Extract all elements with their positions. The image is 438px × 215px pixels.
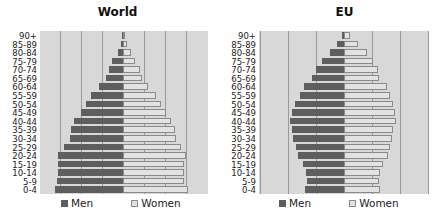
age-group-label: 0-4 <box>222 186 256 195</box>
men-bar <box>292 126 344 133</box>
men-bar <box>292 109 344 116</box>
women-bar <box>123 101 161 108</box>
women-bar <box>123 49 131 56</box>
men-bar <box>58 152 123 159</box>
eu-pyramid-chart: EU 90+85-8980-8475-7970-7465-6960-6455-5… <box>219 0 438 215</box>
men-bar <box>71 126 123 133</box>
men-bar <box>298 152 344 159</box>
men-bar <box>300 92 344 99</box>
men-bar <box>99 83 123 90</box>
women-bar <box>123 135 176 142</box>
legend-women-label: Women <box>141 197 181 209</box>
men-bar <box>55 186 123 193</box>
world-plot-area <box>40 31 208 194</box>
men-bar <box>58 169 123 176</box>
men-bar <box>106 75 123 82</box>
women-bar <box>344 41 358 48</box>
men-bar <box>64 144 123 151</box>
women-bar <box>344 118 396 125</box>
women-bar <box>344 169 380 176</box>
men-bar <box>58 161 123 168</box>
men-bar <box>112 58 123 65</box>
women-bar <box>344 101 393 108</box>
men-bar <box>322 58 344 65</box>
men-bar <box>304 83 344 90</box>
men-bar <box>295 101 344 108</box>
age-group-label: 0-4 <box>3 186 37 195</box>
women-bar <box>344 135 392 142</box>
men-bar <box>293 135 344 142</box>
eu-plot-area <box>259 31 429 194</box>
men-bar <box>74 118 123 125</box>
women-bar <box>123 186 188 193</box>
legend-men-swatch <box>279 200 286 207</box>
legend-men-label: Men <box>289 197 311 209</box>
women-bar <box>123 144 181 151</box>
women-bar <box>344 75 379 82</box>
women-bar <box>344 83 387 90</box>
men-bar <box>57 178 123 185</box>
women-bar <box>123 161 184 168</box>
eu-chart-title: EU <box>235 5 438 19</box>
women-bar <box>123 58 135 65</box>
women-bar <box>344 109 395 116</box>
women-bar <box>344 58 373 65</box>
gridline <box>428 31 429 194</box>
women-bar <box>123 75 142 82</box>
men-bar <box>306 169 344 176</box>
women-bar <box>344 144 390 151</box>
men-bar <box>316 66 344 73</box>
men-bar <box>303 161 344 168</box>
women-bar <box>344 152 388 159</box>
women-bar <box>344 32 350 39</box>
legend-women-swatch <box>349 200 356 207</box>
women-bar <box>123 169 184 176</box>
men-bar <box>305 186 344 193</box>
women-bar <box>344 66 378 73</box>
world-chart-title: World <box>8 5 227 19</box>
legend-men-swatch <box>61 200 68 207</box>
legend-women-label: Women <box>359 197 399 209</box>
women-bar <box>344 92 390 99</box>
women-bar <box>123 66 140 73</box>
men-bar <box>312 75 344 82</box>
men-bar <box>109 66 123 73</box>
gridline <box>288 31 289 194</box>
women-bar <box>344 126 393 133</box>
gridline <box>260 31 261 194</box>
women-bar <box>123 92 156 99</box>
men-bar <box>86 101 123 108</box>
world-legend: Men Women <box>61 197 181 209</box>
men-bar <box>290 118 344 125</box>
men-bar <box>91 92 123 99</box>
women-bar <box>123 126 175 133</box>
women-bar <box>123 178 184 185</box>
women-bar <box>344 178 379 185</box>
gridline <box>186 31 187 194</box>
women-bar <box>123 118 171 125</box>
women-bar <box>123 152 186 159</box>
women-bar <box>123 41 127 48</box>
men-bar <box>70 135 123 142</box>
women-bar <box>123 32 125 39</box>
men-bar <box>337 41 344 48</box>
women-bar <box>344 186 380 193</box>
eu-legend: Men Women <box>279 197 399 209</box>
women-bar <box>344 161 383 168</box>
men-bar <box>81 109 123 116</box>
men-bar <box>330 49 344 56</box>
men-bar <box>296 144 344 151</box>
world-pyramid-chart: World 90+85-8980-8475-7970-7465-6960-645… <box>0 0 219 215</box>
women-bar <box>123 83 148 90</box>
men-bar <box>307 178 344 185</box>
women-bar <box>344 49 367 56</box>
legend-women-swatch <box>131 200 138 207</box>
legend-men-label: Men <box>71 197 93 209</box>
gridline <box>400 31 401 194</box>
women-bar <box>123 109 166 116</box>
